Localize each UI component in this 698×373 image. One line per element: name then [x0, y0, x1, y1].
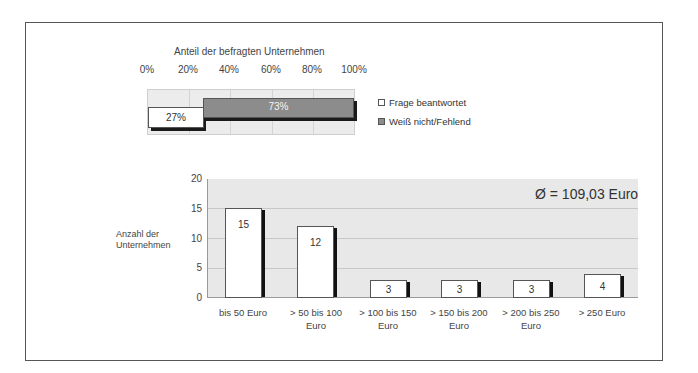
- category-label: > 200 bis 250 Euro: [495, 306, 567, 332]
- category-line2: Euro: [280, 319, 352, 332]
- legend-swatch-white-icon: [378, 99, 385, 106]
- legend-swatch-gray-icon: [378, 118, 385, 125]
- category-line1: > 100 bis 150: [352, 306, 424, 319]
- legend-item-missing: Weiß nicht/Fehlend: [378, 116, 471, 127]
- category-line1: > 250 Euro: [566, 306, 638, 319]
- category-line2: Euro: [352, 319, 424, 332]
- top-tick-40: 40%: [219, 64, 239, 75]
- bar-100-150: 3: [370, 280, 407, 298]
- bar-200-250: 3: [513, 280, 550, 298]
- y-tick-15: 15: [182, 203, 202, 214]
- y-tick-5: 5: [182, 262, 202, 273]
- gridline: [208, 238, 638, 239]
- y-tick-0: 0: [182, 292, 202, 303]
- y-tick-10: 10: [182, 233, 202, 244]
- average-annotation: Ø = 109,03 Euro: [535, 186, 638, 202]
- top-tick-0: 0%: [140, 64, 154, 75]
- top-tick-100: 100%: [341, 64, 367, 75]
- category-label: > 100 bis 150 Euro: [352, 306, 424, 332]
- category-label: > 50 bis 100 Euro: [280, 306, 352, 332]
- category-line1: > 200 bis 250: [495, 306, 567, 319]
- top-tick-80: 80%: [302, 64, 322, 75]
- category-line1: > 50 bis 100: [280, 306, 352, 319]
- y-axis-label-line1: Anzahl der: [116, 229, 171, 240]
- bar-50-100: 12: [297, 226, 334, 298]
- legend-label: Frage beantwortet: [389, 97, 466, 108]
- legend-item-answered: Frage beantwortet: [378, 97, 466, 108]
- gridline: [208, 268, 638, 269]
- y-axis-label: Anzahl der Unternehmen: [116, 229, 171, 251]
- category-label: > 150 bis 200 Euro: [423, 306, 495, 332]
- category-label: bis 50 Euro: [207, 306, 279, 319]
- bar-bis-50: 15: [225, 208, 262, 298]
- bar-missing: 73%: [203, 98, 354, 118]
- bar-150-200: 3: [441, 280, 478, 298]
- category-line1: > 150 bis 200: [423, 306, 495, 319]
- top-chart-title: Anteil der befragten Unternehmen: [174, 46, 325, 57]
- legend-label: Weiß nicht/Fehlend: [389, 116, 471, 127]
- gridline: [208, 208, 638, 209]
- top-tick-60: 60%: [261, 64, 281, 75]
- category-label: > 250 Euro: [566, 306, 638, 319]
- top-tick-20: 20%: [178, 64, 198, 75]
- y-tick-20: 20: [182, 173, 202, 184]
- bar-over-250: 4: [584, 274, 621, 298]
- bar-answered: 27%: [148, 107, 204, 128]
- y-axis-label-line2: Unternehmen: [116, 240, 171, 251]
- category-line1: bis 50 Euro: [207, 306, 279, 319]
- category-line2: Euro: [423, 319, 495, 332]
- category-line2: Euro: [495, 319, 567, 332]
